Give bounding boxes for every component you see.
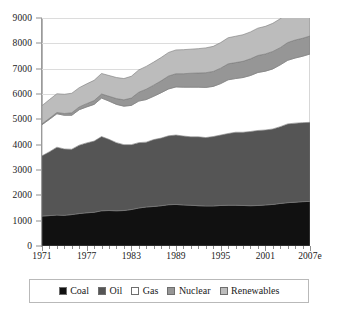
stacked-area-chart: 0100020003000400050006000700080009000 19…: [0, 0, 337, 313]
x-tick-mark: [79, 246, 80, 249]
y-tick-label: 9000: [13, 13, 32, 23]
legend-swatch-nuclear-icon: [167, 287, 175, 295]
y-tick-label: 0: [27, 241, 32, 251]
x-tick-mark: [64, 246, 65, 249]
legend-swatch-renewables-icon: [220, 287, 228, 295]
x-tick-mark: [258, 246, 259, 249]
x-tick-mark: [288, 246, 289, 249]
area-series-svg: [42, 18, 310, 246]
x-tick-mark: [295, 246, 296, 249]
x-tick-mark: [303, 246, 304, 249]
x-tick-mark: [57, 246, 58, 249]
legend-item-renewables[interactable]: Renewables: [220, 286, 280, 296]
x-tick-mark: [116, 246, 117, 249]
x-tick-mark: [124, 246, 125, 249]
x-tick-mark: [206, 246, 207, 249]
x-tick-mark: [161, 246, 162, 249]
chart-legend: CoalOilGasNuclearRenewables: [29, 279, 309, 303]
y-tick-label: 2000: [13, 190, 32, 200]
x-tick-label: 1983: [122, 251, 141, 261]
x-tick-label: 2001: [256, 251, 275, 261]
x-tick-mark: [198, 246, 199, 249]
x-tick-mark: [94, 246, 95, 249]
legend-swatch-coal-icon: [59, 287, 67, 295]
legend-label: Gas: [143, 286, 159, 296]
legend-item-coal[interactable]: Coal: [59, 286, 89, 296]
x-tick-mark: [243, 246, 244, 249]
x-tick-mark: [49, 246, 50, 249]
y-tick-label: 3000: [13, 165, 32, 175]
legend-swatch-gas-icon: [131, 287, 139, 295]
legend-item-oil[interactable]: Oil: [98, 286, 122, 296]
x-tick-mark: [280, 246, 281, 249]
legend-item-gas[interactable]: Gas: [131, 286, 158, 296]
x-tick-mark: [191, 246, 192, 249]
x-tick-mark: [146, 246, 147, 249]
y-tick-label: 7000: [13, 64, 32, 74]
y-tick-label: 1000: [13, 216, 32, 226]
x-tick-mark: [154, 246, 155, 249]
x-tick-mark: [250, 246, 251, 249]
x-tick-label: 1989: [166, 251, 185, 261]
x-tick-mark: [72, 246, 73, 249]
legend-label: Coal: [70, 286, 89, 296]
legend-item-nuclear[interactable]: Nuclear: [167, 286, 210, 296]
y-tick-label: 4000: [13, 140, 32, 150]
x-tick-label: 1977: [77, 251, 96, 261]
x-tick-mark: [213, 246, 214, 249]
y-tick-label: 8000: [13, 38, 32, 48]
y-axis: 0100020003000400050006000700080009000: [0, 0, 42, 264]
y-tick-label: 5000: [13, 114, 32, 124]
y-tick-label: 6000: [13, 89, 32, 99]
plot-area: [42, 18, 310, 246]
x-tick-mark: [183, 246, 184, 249]
x-tick-mark: [102, 246, 103, 249]
x-tick-label: 2007e: [298, 251, 322, 261]
x-tick-mark: [139, 246, 140, 249]
legend-label: Renewables: [231, 286, 279, 296]
x-tick-mark: [109, 246, 110, 249]
x-tick-mark: [236, 246, 237, 249]
x-tick-mark: [273, 246, 274, 249]
x-tick-label: 1995: [211, 251, 230, 261]
legend-swatch-oil-icon: [98, 287, 106, 295]
x-tick-mark: [228, 246, 229, 249]
x-tick-label: 1971: [32, 251, 51, 261]
legend-label: Oil: [110, 286, 123, 296]
x-tick-mark: [169, 246, 170, 249]
legend-label: Nuclear: [179, 286, 211, 296]
x-axis: 1971197719831989199520012007e: [42, 246, 310, 268]
